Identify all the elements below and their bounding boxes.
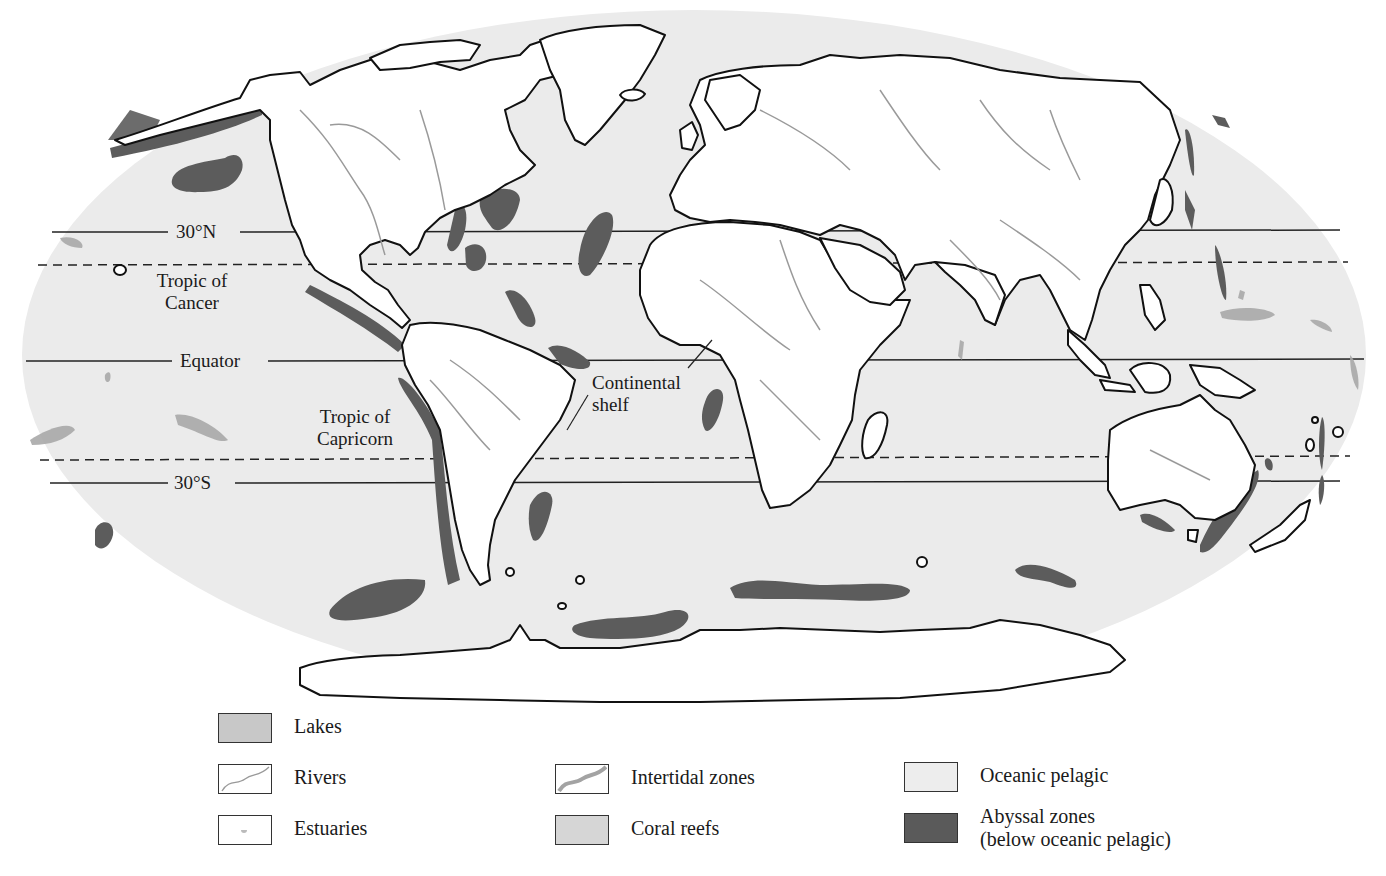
intertidal-swatch bbox=[555, 764, 609, 794]
label-30n: 30°N bbox=[176, 221, 216, 243]
iceland bbox=[620, 90, 645, 101]
label-continental-shelf: Continental shelf bbox=[592, 372, 681, 416]
legend-label: Oceanic pelagic bbox=[980, 764, 1108, 787]
legend-item-rivers: Rivers bbox=[218, 764, 346, 794]
legend-label: Intertidal zones bbox=[631, 766, 755, 789]
pelagic-swatch bbox=[904, 762, 958, 792]
legend-label: Rivers bbox=[294, 766, 346, 789]
legend-label-sub: (below oceanic pelagic) bbox=[980, 828, 1171, 851]
abyssal-swatch bbox=[904, 813, 958, 843]
estuaries-swatch bbox=[218, 815, 272, 845]
lakes-swatch bbox=[218, 713, 272, 743]
label-tropic-of-cancer-line1: Tropic of bbox=[132, 270, 252, 292]
river-line-icon bbox=[219, 765, 270, 792]
label-30s: 30°S bbox=[174, 472, 211, 494]
label-continental-shelf-line2: shelf bbox=[592, 394, 681, 416]
rivers-swatch bbox=[218, 764, 272, 794]
label-tropic-of-capricorn: Tropic of Capricorn bbox=[295, 406, 415, 450]
legend-item-lakes: Lakes bbox=[218, 713, 342, 743]
legend-item-estuaries: Estuaries bbox=[218, 815, 367, 845]
legend-item-coral-reefs: Coral reefs bbox=[555, 815, 719, 845]
legend-label: Estuaries bbox=[294, 817, 367, 840]
legend-label: Coral reefs bbox=[631, 817, 719, 840]
legend-label: Abyssal zones bbox=[980, 805, 1171, 828]
intertidal-line-icon bbox=[556, 765, 607, 792]
legend-item-abyssal-zones: Abyssal zones (below oceanic pelagic) bbox=[904, 813, 1171, 851]
label-tropic-of-cancer: Tropic of Cancer bbox=[132, 270, 252, 314]
legend-item-intertidal: Intertidal zones bbox=[555, 764, 755, 794]
legend-label: Lakes bbox=[294, 715, 342, 738]
label-tropic-of-capricorn-line1: Tropic of bbox=[295, 406, 415, 428]
label-tropic-of-capricorn-line2: Capricorn bbox=[295, 428, 415, 450]
tasmania bbox=[1188, 530, 1198, 542]
label-continental-shelf-line1: Continental bbox=[592, 372, 681, 394]
coral-swatch bbox=[555, 815, 609, 845]
label-tropic-of-cancer-line2: Cancer bbox=[132, 292, 252, 314]
legend-item-oceanic-pelagic: Oceanic pelagic bbox=[904, 762, 1108, 792]
label-equator: Equator bbox=[180, 350, 240, 372]
legend-label-abyssal: Abyssal zones (below oceanic pelagic) bbox=[980, 803, 1171, 851]
estuary-mark-icon bbox=[241, 830, 247, 833]
